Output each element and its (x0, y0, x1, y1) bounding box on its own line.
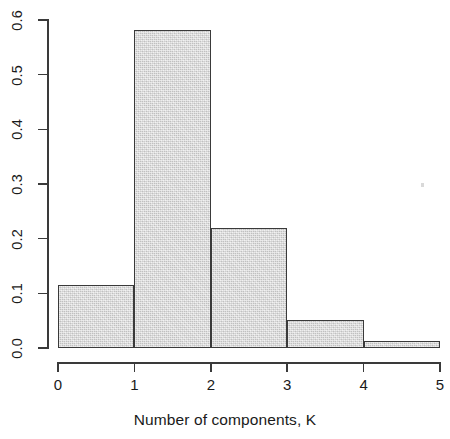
y-axis-tick-label: 0.2 (10, 222, 25, 256)
histogram-bar (287, 320, 363, 348)
x-axis-tick-label: 3 (272, 377, 302, 392)
y-axis-tick-label: 0.4 (10, 113, 25, 147)
x-axis-tick-label: 5 (425, 377, 450, 392)
x-axis-title: Number of components, K (0, 412, 450, 428)
histogram-bar (364, 341, 440, 348)
x-axis-tick (286, 362, 288, 372)
x-axis-tick (439, 362, 441, 372)
x-axis-tick (134, 362, 136, 372)
y-axis-tick (38, 74, 48, 76)
y-axis-tick-label: 0.1 (10, 277, 25, 311)
x-axis-tick (57, 362, 59, 372)
x-axis-tick-label: 0 (43, 377, 73, 392)
y-axis-tick (38, 238, 48, 240)
x-axis-tick (363, 362, 365, 372)
y-axis-tick-label: 0.6 (10, 3, 25, 37)
y-axis-tick (38, 19, 48, 21)
histogram-figure: 0.00.10.20.30.40.50.6 012345 Number of c… (0, 0, 450, 439)
y-axis-tick (38, 129, 48, 131)
x-axis-tick (210, 362, 212, 372)
x-axis-tick-label: 4 (349, 377, 379, 392)
x-axis-tick-label: 2 (196, 377, 226, 392)
y-axis-tick-label: 0.0 (10, 331, 25, 365)
histogram-bar (58, 285, 134, 348)
x-axis-line (58, 362, 441, 364)
y-axis-tick-label: 0.5 (10, 58, 25, 92)
y-axis-tick (38, 293, 48, 295)
x-axis-tick-label: 1 (119, 377, 149, 392)
y-axis-tick (38, 347, 48, 349)
histogram-bar (211, 228, 287, 348)
y-axis-tick-label: 0.3 (10, 167, 25, 201)
scan-artifact (421, 183, 424, 187)
plot-area (58, 20, 440, 348)
y-axis-tick (38, 183, 48, 185)
histogram-bar (134, 30, 210, 348)
